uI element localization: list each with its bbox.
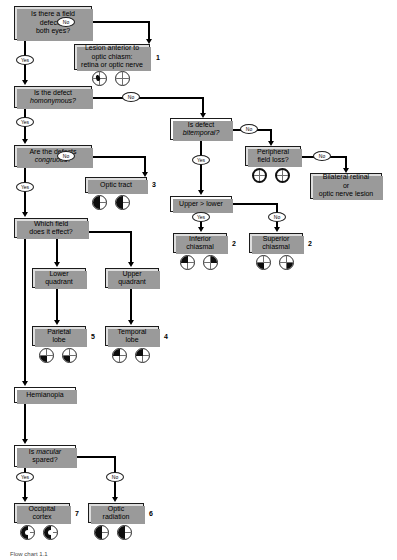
decision-which-field[interactable]: Which field does it effect? <box>14 218 88 238</box>
edge-label-yes-macular: Yes <box>16 472 34 482</box>
outcome-optic-radiation-index: 6 <box>149 510 153 517</box>
field-icon-upper-left-quadrantanopia-left-eye <box>112 348 127 363</box>
outcome-parietal-lobe[interactable]: Parietal lobe <box>32 326 86 346</box>
decision-upper-greater-lower[interactable]: Upper > lower <box>170 196 232 212</box>
field-icons-optic-radiation <box>94 524 144 541</box>
outcome-temporal-lobe-label: Temporal lobe <box>118 328 147 345</box>
outcome-optic-tract-index: 3 <box>152 181 156 188</box>
edge-homonymous-no-v <box>202 97 204 114</box>
field-icon-upper-temporal-quadrant-left-eye <box>180 255 195 270</box>
arrowhead-homonymous-yes <box>22 139 28 144</box>
edge-label-yes-both-eyes: Yes <box>16 55 34 65</box>
node-upper-quadrant-label: Upper quadrant <box>118 270 146 287</box>
field-icons-parietal-lobe <box>39 347 89 364</box>
edge-label-yes-homonymous: Yes <box>16 117 34 127</box>
edge-both-eyes-no-h <box>92 21 150 23</box>
edge-hemianopia-macular-v <box>24 403 26 441</box>
field-icon-left-hemianopia-left-eye <box>92 195 107 210</box>
edge-label-no-bitemporal: No <box>240 124 258 134</box>
field-icon-normal-right-eye <box>115 71 130 86</box>
outcome-bilateral-retinal-label: Bilateral retinal or optic nerve lesion <box>319 173 373 198</box>
outcome-lesion-anterior[interactable]: Lesion anterior to optic chiasm: retina … <box>74 44 150 70</box>
outcome-parietal-lobe-index: 5 <box>91 333 95 340</box>
decision-which-field-label: Which field does it effect? <box>29 220 72 237</box>
decision-bitemporal-label: Is defect bitemporal? <box>183 121 220 138</box>
node-hemianopia[interactable]: Hemianopia <box>14 387 76 403</box>
edge-label-yes-bitemporal: Yes <box>192 155 210 165</box>
arrowhead-macular <box>22 439 28 444</box>
edge-label-no-congruous: No <box>57 151 75 161</box>
field-icon-left-hemianopia-congruous-left-eye <box>94 525 109 540</box>
field-icon-left-hemianopia-macular-sparing-left-eye <box>20 525 35 540</box>
field-icon-upper-left-quadrantanopia-right-eye <box>135 348 150 363</box>
node-lower-quadrant[interactable]: Lower quadrant <box>32 268 86 288</box>
edge-label-yes-congruous: Yes <box>16 182 34 192</box>
node-upper-quadrant[interactable]: Upper quadrant <box>105 268 159 288</box>
outcome-inferior-chiasmal-label: Inferior chiasmal <box>186 235 214 252</box>
field-icons-inferior-chiasmal <box>180 254 230 271</box>
outcome-temporal-lobe[interactable]: Temporal lobe <box>105 326 159 346</box>
outcome-inferior-chiasmal[interactable]: Inferior chiasmal <box>173 233 227 253</box>
field-icons-occipital-cortex <box>20 524 70 541</box>
decision-macular-spared[interactable]: Is macular spared? <box>14 445 76 467</box>
field-icon-lower-left-quadrantanopia-right-eye <box>62 348 77 363</box>
outcome-occipital-cortex-index: 7 <box>75 510 79 517</box>
outcome-lesion-anterior-index: 1 <box>156 54 160 61</box>
outcome-inferior-chiasmal-index: 2 <box>232 240 236 247</box>
arrowhead-hemianopia <box>22 381 28 386</box>
field-icon-upper-temporal-quadrant-right-eye <box>203 255 218 270</box>
edge-homonymous-no-h <box>92 97 204 99</box>
node-hemianopia-label: Hemianopia <box>26 391 63 399</box>
field-icon-left-hemianopia-right-eye <box>115 195 130 210</box>
outcome-optic-tract-label: Optic tract <box>100 181 132 189</box>
field-icon-peripheral-constriction-right-eye <box>275 168 290 183</box>
edge-both-eyes-no-v <box>148 21 150 40</box>
edge-upper-temporal-v <box>130 288 132 322</box>
outcome-superior-chiasmal-label: Superior chiasmal <box>262 235 290 252</box>
outcome-temporal-lobe-index: 4 <box>164 333 168 340</box>
edge-lower-parietal-v <box>56 288 58 322</box>
arrowhead-bitemporal-yes <box>198 190 204 195</box>
outcome-superior-chiasmal[interactable]: Superior chiasmal <box>249 233 303 253</box>
outcome-occipital-cortex-label: Occipital cortex <box>29 505 56 522</box>
field-icon-left-hemianopia-congruous-right-eye <box>117 525 132 540</box>
decision-peripheral-field-loss[interactable]: Peripheral field loss? <box>245 146 301 166</box>
edge-which-field-upper-v <box>130 231 132 264</box>
edge-label-no-homonymous: No <box>122 92 140 102</box>
field-icon-lower-temporal-quadrant-left-eye <box>256 255 271 270</box>
outcome-occipital-cortex[interactable]: Occipital cortex <box>14 503 70 523</box>
outcome-lesion-anterior-label: Lesion anterior to optic chiasm: retina … <box>81 44 143 69</box>
arrowhead-macular-no <box>112 497 118 502</box>
decision-peripheral-field-loss-label: Peripheral field loss? <box>257 148 289 165</box>
arrowhead-both-eyes-yes <box>22 80 28 85</box>
field-icon-central-scotoma-left-eye <box>92 71 107 86</box>
edge-upper-lower-no-h <box>230 203 278 205</box>
decision-homonymous[interactable]: Is the defect homonymous? <box>14 86 92 108</box>
arrowhead-upper-lower-no <box>274 227 280 232</box>
outcome-optic-radiation[interactable]: Optic radiation <box>88 503 144 523</box>
decision-upper-greater-lower-label: Upper > lower <box>179 200 223 208</box>
outcome-optic-radiation-label: Optic radiation <box>103 505 130 522</box>
edge-label-yes-upper-lower: Yes <box>192 212 210 222</box>
flowchart-canvas: Is there a field defect in both eyes? No… <box>0 0 397 560</box>
edge-which-field-hemianopia-v <box>24 238 26 383</box>
decision-macular-spared-label: Is macular spared? <box>29 448 61 465</box>
edge-label-no-both-eyes: No <box>57 17 75 27</box>
decision-bitemporal[interactable]: Is defect bitemporal? <box>170 118 232 140</box>
arrowhead-congruous-yes <box>22 212 28 217</box>
edge-label-no-upper-lower: No <box>268 212 286 222</box>
outcome-optic-tract[interactable]: Optic tract <box>85 177 147 193</box>
arrowhead-which-field-upper <box>128 262 134 267</box>
arrowhead-which-field-lower <box>54 262 60 267</box>
edge-congruous-no-h <box>92 156 146 158</box>
outcome-bilateral-retinal-or-optic-nerve-lesion[interactable]: Bilateral retinal or optic nerve lesion <box>310 173 382 199</box>
arrowhead-upper-temporal <box>128 320 134 325</box>
decision-congruous[interactable]: Are the defects congruous? <box>14 145 92 167</box>
decision-homonymous-label: Is the defect homonymous? <box>30 89 76 106</box>
field-icons-lesion-anterior <box>92 70 142 87</box>
outcome-superior-chiasmal-index: 2 <box>308 240 312 247</box>
field-icons-optic-tract <box>92 194 142 211</box>
edge-congruous-no-v <box>144 156 146 173</box>
decision-both-eyes[interactable]: Is there a field defect in both eyes? <box>14 6 92 40</box>
field-icon-peripheral-constriction-left-eye <box>252 168 267 183</box>
